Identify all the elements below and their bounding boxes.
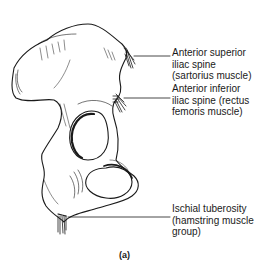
label-line: iliac spine [172, 59, 251, 71]
label-line: group) [172, 226, 254, 238]
label-line: iliac spine (rectus [172, 95, 249, 107]
label-line: Anterior inferior [172, 83, 249, 95]
label-line: (sartorius muscle) [172, 70, 251, 82]
hip-bone-diagram: Anterior superior iliac spine (sartorius… [0, 0, 259, 268]
ischial-tendon [58, 214, 66, 234]
label-line: (hamstring muscle [172, 215, 254, 227]
label-line: Ischial tuberosity [172, 203, 254, 215]
label-line: femoris muscle) [172, 106, 249, 118]
obturator-foramen [86, 167, 132, 198]
figure-caption: (a) [119, 250, 130, 260]
label-line: Anterior superior [172, 47, 251, 59]
aiis-tendon [113, 94, 126, 112]
label-anterior-inferior-iliac-spine: Anterior inferior iliac spine (rectus fe… [172, 83, 249, 118]
label-anterior-superior-iliac-spine: Anterior superior iliac spine (sartorius… [172, 47, 251, 82]
label-ischial-tuberosity: Ischial tuberosity (hamstring muscle gro… [172, 203, 254, 238]
